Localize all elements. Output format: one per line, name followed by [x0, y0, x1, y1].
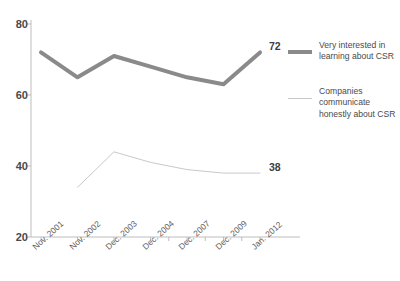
x-axis-tick-label: Dec. 2003	[104, 219, 138, 251]
chart-page: 80604020 Nov. 2001Nov. 2002Dec. 2003Dec.…	[0, 0, 400, 281]
x-axis-tick-label: Jan. 2012	[250, 220, 283, 251]
x-axis-tick-label: Dec. 2009	[214, 219, 248, 251]
x-axis-tick-label: Nov. 2001	[31, 219, 65, 251]
legend-item-label: Companies communicate honestly about CSR	[319, 86, 399, 120]
series-end-value-label: 72	[269, 41, 281, 52]
chart-legend: Very interested in learning about CSRCom…	[288, 40, 400, 140]
x-axis-tick-label: Nov. 2002	[68, 219, 102, 251]
series-end-value-label: 38	[269, 162, 281, 173]
legend-item[interactable]: Very interested in learning about CSR	[288, 40, 400, 66]
x-axis-tick-label: Dec. 2007	[177, 219, 211, 251]
legend-item-label: Very interested in learning about CSR	[319, 40, 399, 63]
x-axis-tick-label: Dec. 2004	[141, 219, 175, 251]
legend-item[interactable]: Companies communicate honestly about CSR	[288, 86, 400, 120]
legend-line-swatch-icon	[288, 86, 312, 112]
legend-line-swatch-icon	[288, 40, 312, 66]
